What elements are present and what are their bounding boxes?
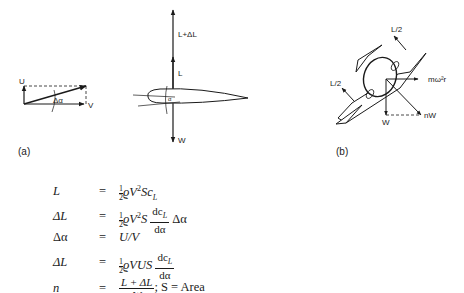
label-l-half-upper: L/2	[391, 25, 403, 34]
label-l: L	[178, 69, 183, 78]
label-nw: nW	[424, 111, 436, 120]
airfoil-diagram: L+ΔL L W α	[133, 10, 248, 145]
label-l-plus-delta-l: L+ΔL	[178, 30, 197, 39]
label-v: V	[88, 101, 94, 110]
caption-a: (a)	[18, 146, 30, 157]
banked-aircraft-diagram: L/2 L/2 mω²r W nW	[330, 25, 447, 127]
label-l-half-lower: L/2	[330, 79, 342, 88]
label-weight: W	[382, 118, 390, 127]
label-centrifugal: mω²r	[428, 75, 447, 84]
label-alpha: α	[168, 96, 172, 102]
velocity-triangle: U V Δα	[19, 77, 94, 112]
label-w: W	[178, 136, 186, 145]
label-delta-alpha: Δα	[53, 96, 63, 105]
figure-canvas: U V Δα (a) L+ΔL L W α L/2 L/2 mω²r W nW	[0, 0, 464, 180]
caption-b: (b)	[336, 146, 348, 157]
label-u: U	[19, 77, 25, 86]
